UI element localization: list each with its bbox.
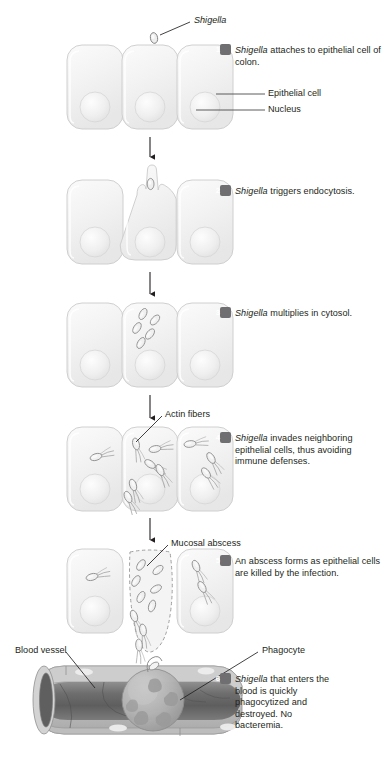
- step-3-body: multiplies in cytosol.: [268, 308, 352, 318]
- step-4-text: 4Shigella invades neighboring epithelial…: [220, 432, 385, 468]
- step-4-italic-lead: Shigella: [235, 433, 268, 443]
- step-5-body: An abscess forms as epithelial cells are…: [235, 556, 380, 578]
- callout-actin-fibers: Actin fibers: [165, 409, 210, 421]
- endocytosing-cell: [120, 165, 176, 260]
- step4-cell-row: [67, 427, 233, 516]
- callout-blood-vessel: Blood vessel: [15, 645, 67, 657]
- blood-vessel: [33, 657, 242, 736]
- step-2-text: 2Shigella triggers endocytosis.: [220, 185, 383, 198]
- step-6-italic-lead: Shigella: [235, 674, 268, 684]
- step-3-text: 3Shigella multiplies in cytosol.: [220, 307, 383, 320]
- step-2-badge: 2: [220, 185, 231, 196]
- step-6-badge: 6: [220, 673, 231, 684]
- step-2-body: triggers endocytosis.: [268, 186, 355, 196]
- callout-nucleus: Nucleus: [268, 104, 301, 116]
- callout-shigella: Shigella: [194, 15, 226, 27]
- step-3-badge: 3: [220, 307, 231, 318]
- step-1-text: 1Shigella attaches to epithelial cell of…: [220, 44, 383, 68]
- shigella-leader-line: [160, 22, 190, 35]
- step-1-italic-lead: Shigella: [235, 45, 268, 55]
- step-1-badge: 1: [220, 44, 231, 55]
- step1-cell-row: [67, 32, 233, 129]
- step-3-italic-lead: Shigella: [235, 308, 268, 318]
- callout-mucosal-abscess: Mucosal abscess: [171, 538, 241, 550]
- step2-cell-row: [67, 165, 233, 264]
- step-2-italic-lead: Shigella: [235, 186, 268, 196]
- step-6-text: 6Shigella that enters the blood is quick…: [220, 673, 331, 732]
- step-4-badge: 4: [220, 432, 231, 443]
- step-5-text: 5An abscess forms as epithelial cells ar…: [220, 555, 385, 579]
- step3-cell-row: [67, 303, 233, 387]
- step-5-badge: 5: [220, 555, 231, 566]
- shigella-attached: [150, 32, 159, 44]
- step5-cell-row: [67, 549, 233, 664]
- callout-epithelial-cell: Epithelial cell: [268, 88, 321, 100]
- callout-phagocyte: Phagocyte: [262, 645, 305, 657]
